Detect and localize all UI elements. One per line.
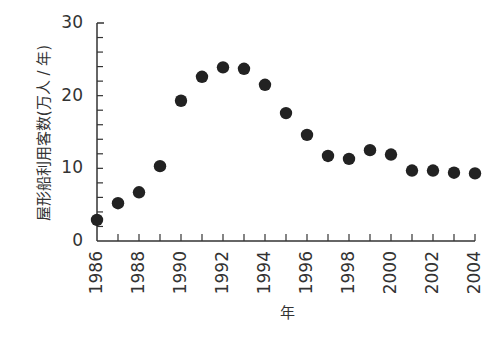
y-axis-label: 屋形船利用客数(万人 / 年) bbox=[35, 45, 53, 221]
x-tick-label: 1988 bbox=[128, 251, 148, 294]
data-point bbox=[364, 144, 376, 156]
data-point bbox=[406, 164, 418, 176]
data-point bbox=[112, 197, 124, 209]
data-point bbox=[175, 95, 187, 107]
data-point bbox=[238, 63, 250, 75]
data-point bbox=[196, 71, 208, 83]
data-point bbox=[469, 167, 481, 179]
y-tick-label: 20 bbox=[61, 85, 83, 105]
data-point bbox=[385, 148, 397, 160]
x-axis: 1986198819901992199419961998200020022004 bbox=[86, 234, 484, 294]
x-tick-label: 1992 bbox=[212, 251, 232, 294]
x-tick-label: 1998 bbox=[338, 251, 358, 294]
data-point bbox=[280, 107, 292, 119]
data-point bbox=[154, 160, 166, 172]
x-tick-label: 2004 bbox=[464, 251, 484, 294]
data-point bbox=[301, 129, 313, 141]
data-point bbox=[448, 166, 460, 178]
data-point bbox=[259, 79, 271, 91]
x-tick-label: 1986 bbox=[86, 251, 106, 294]
data-point bbox=[343, 153, 355, 165]
scatter-chart: 0102030 19861988199019921994199619982000… bbox=[0, 0, 499, 347]
x-tick-label: 1990 bbox=[170, 251, 190, 294]
data-point bbox=[217, 61, 229, 73]
data-point bbox=[427, 164, 439, 176]
data-point bbox=[91, 214, 103, 226]
y-tick-label: 30 bbox=[61, 12, 83, 32]
x-tick-label: 1996 bbox=[296, 251, 316, 294]
data-points bbox=[91, 61, 481, 226]
y-tick-label: 0 bbox=[72, 230, 83, 250]
x-tick-label: 2000 bbox=[380, 251, 400, 294]
x-tick-label: 1994 bbox=[254, 251, 274, 294]
x-tick-label: 2002 bbox=[422, 251, 442, 294]
x-axis-label: 年 bbox=[280, 304, 295, 322]
data-point bbox=[322, 150, 334, 162]
data-point bbox=[133, 186, 145, 198]
y-tick-label: 10 bbox=[61, 157, 83, 177]
